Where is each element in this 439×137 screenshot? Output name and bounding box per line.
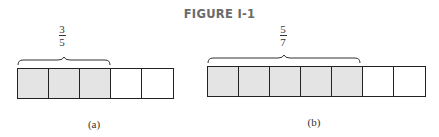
cell-empty [111,69,142,98]
cell-shaded [18,69,49,98]
fraction-b: 5 7 [273,24,293,47]
cell-shaded [332,67,363,96]
cell-shaded [49,69,80,98]
cell-shaded [301,67,332,96]
cell-empty [394,67,425,96]
cell-shaded [208,67,239,96]
figure-title: FIGURE I-1 [0,7,439,21]
cell-shaded [80,69,111,98]
cell-empty [142,69,173,98]
fraction-a: 3 5 [52,24,72,47]
brace-a [17,56,111,66]
cell-shaded [239,67,270,96]
cell-shaded [270,67,301,96]
cell-empty [363,67,394,96]
fraction-b-numerator: 5 [273,24,293,34]
brace-b [207,54,361,64]
strip-b [207,66,426,97]
fraction-a-numerator: 3 [52,24,72,34]
label-a: (a) [84,118,104,130]
fraction-b-denominator: 7 [273,37,293,47]
fraction-a-denominator: 5 [52,37,72,47]
label-b: (b) [304,116,324,128]
strip-a [17,68,174,99]
